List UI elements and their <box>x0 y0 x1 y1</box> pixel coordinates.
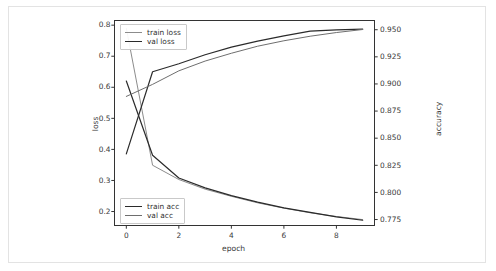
axis-tick-label: 0.775 <box>380 216 414 223</box>
legend-item[interactable]: train loss <box>125 28 181 37</box>
legend-item[interactable]: val acc <box>125 211 179 220</box>
axis-tick-label: 0.900 <box>380 80 414 87</box>
axis-tick-label: 0.925 <box>380 53 414 60</box>
axis-tick-label: 8 <box>324 232 348 239</box>
axis-tick-label: 2 <box>167 232 191 239</box>
legend-label: val acc <box>147 211 173 220</box>
y-axis-label: loss <box>92 109 100 139</box>
y2-axis-label: accuracy <box>435 99 443 139</box>
axis-tick-label: 0.2 <box>79 208 111 215</box>
plot-canvas <box>9 7 487 264</box>
axis-tick-label: 0.8 <box>79 21 111 28</box>
axis-tick-label: 0.800 <box>380 189 414 196</box>
legend-line-swatch <box>125 206 142 207</box>
plot-area <box>115 21 375 226</box>
x-axis-label: epoch <box>222 245 245 253</box>
legend-label: train acc <box>147 202 179 211</box>
axis-tick-label: 0.950 <box>380 26 414 33</box>
legend-item[interactable]: val loss <box>125 37 181 46</box>
figure-frame: 024680.20.30.40.50.60.70.80.7750.8000.82… <box>8 6 486 263</box>
legend-label: val loss <box>147 37 175 46</box>
axis-tick-label: 4 <box>219 232 243 239</box>
axis-tick-label: 0.850 <box>380 134 414 141</box>
axis-tick-label: 0.875 <box>380 107 414 114</box>
legend-line-swatch <box>125 215 142 216</box>
accuracy-legend[interactable]: train acc val acc <box>120 198 185 224</box>
legend-label: train loss <box>147 28 181 37</box>
axis-tick-label: 0.6 <box>79 83 111 90</box>
legend-item[interactable]: train acc <box>125 202 179 211</box>
axis-tick-label: 0.825 <box>380 162 414 169</box>
axis-tick-label: 6 <box>272 232 296 239</box>
axes-spines <box>115 21 375 226</box>
legend-line-swatch <box>125 41 142 42</box>
axis-tick-label: 0 <box>114 232 138 239</box>
legend-line-swatch <box>125 32 142 33</box>
axis-tick-label: 0.3 <box>79 177 111 184</box>
axis-tick-label: 0.7 <box>79 52 111 59</box>
axis-tick-label: 0.4 <box>79 146 111 153</box>
loss-legend[interactable]: train loss val loss <box>120 24 187 50</box>
